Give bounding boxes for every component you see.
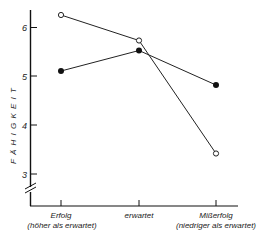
filled-circle-icon [136,48,142,54]
open-circle-icon [58,12,63,17]
x-label-erwartet: erwartet [125,211,155,220]
filled-circle-icon [213,82,219,88]
y-tick-label-5: 5 [22,72,28,82]
y-ticks [31,28,38,175]
series-open-markers [58,12,218,156]
x-label-misserfolg: Mißerfolg [199,211,233,220]
y-tick-label-6: 6 [22,23,27,33]
x-label-erfolg: Erfolg [51,211,72,220]
line-chart: 6 5 4 3 FÄHIGKEIT Erfolg (höher als erwa… [0,0,265,237]
y-tick-label-4: 4 [22,121,27,131]
series-open-line [61,15,216,154]
series-filled-markers [58,48,219,89]
filled-circle-icon [58,68,64,74]
open-circle-icon [136,38,141,43]
x-sublabel-erfolg: (höher als erwartet) [27,221,97,230]
x-sublabel-misserfolg: (niedriger als erwartet) [176,221,256,230]
series-filled-line [61,51,216,86]
y-tick-label-3: 3 [22,170,27,180]
open-circle-icon [213,151,218,156]
y-axis-label: FÄHIGKEIT [9,84,18,164]
x-ticks [61,200,216,206]
